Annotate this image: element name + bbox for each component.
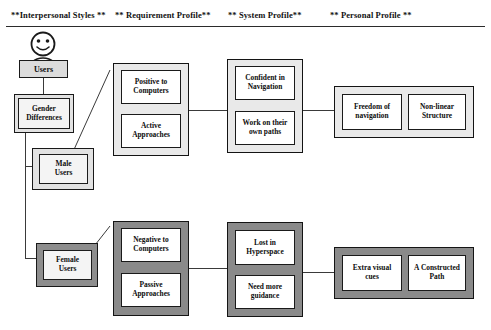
confident-in-navigation-label-line2: Navigation (248, 83, 283, 92)
diagram-canvas: **Interpersonal Styles ** ** Requirement… (0, 0, 491, 330)
male-users-label-line2: Users (55, 169, 73, 178)
node-confident-in-navigation[interactable]: Confident in Navigation (235, 66, 295, 100)
connector-male-users-to-requirement (72, 70, 110, 154)
non-linear-structure-label-line2: Structure (422, 112, 452, 121)
node-gender-differences[interactable]: Gender Differences (18, 98, 70, 129)
connector-users-to-gender (43, 78, 44, 94)
node-work-on-their-own-paths[interactable]: Work on their own paths (235, 111, 295, 145)
column-header-personal-profile: ** Personal Profile ** (330, 10, 412, 20)
freedom-of-navigation-label-line2: navigation (355, 112, 388, 121)
node-non-linear-structure[interactable]: Non-linear Structure (408, 94, 466, 130)
node-active-approaches[interactable]: Active Approaches (121, 114, 181, 148)
need-more-guidance-label-line2: guidance (251, 292, 279, 301)
node-passive-approaches[interactable]: Passive Approaches (121, 273, 181, 307)
column-header-requirement-profile: ** Requirement Profile** (115, 10, 211, 20)
negative-to-computers-label-line2: Computers (133, 245, 168, 254)
passive-approaches-label-line2: Approaches (132, 290, 170, 299)
active-approaches-label-line2: Approaches (132, 131, 170, 140)
female-users-label-line2: Users (59, 265, 77, 274)
node-male-users[interactable]: Male Users (39, 154, 88, 184)
node-lost-in-hyperspace[interactable]: Lost in Hyperspace (235, 230, 295, 265)
connector-system-to-personal-top (302, 110, 334, 111)
node-need-more-guidance[interactable]: Need more guidance (235, 275, 295, 309)
connector-requirement-to-system-top (188, 110, 227, 111)
connector-gender-trunk (25, 133, 26, 258)
extra-visual-cues-label-line2: cues (365, 273, 379, 282)
node-positive-to-computers[interactable]: Positive to Computers (121, 70, 181, 104)
a-constructed-path-label-line2: Path (430, 273, 445, 282)
positive-to-computers-label-line2: Computers (133, 87, 168, 96)
column-header-system-profile: ** System Profile** (228, 10, 302, 20)
node-extra-visual-cues[interactable]: Extra visual cues (342, 255, 402, 291)
connector-requirement-to-system-bottom (188, 268, 227, 269)
node-a-constructed-path[interactable]: A Constructed Path (408, 255, 466, 291)
node-negative-to-computers[interactable]: Negative to Computers (121, 228, 181, 262)
gender-differences-label-line2: Differences (26, 114, 62, 123)
work-own-paths-label-line2: own paths (249, 128, 281, 137)
node-users[interactable]: Users (19, 60, 68, 78)
node-female-users[interactable]: Female Users (43, 250, 92, 280)
connector-system-to-personal-bottom (302, 272, 334, 273)
lost-in-hyperspace-label-line2: Hyperspace (246, 248, 283, 257)
column-header-interpersonal-styles: **Interpersonal Styles ** (11, 10, 106, 20)
header-divider-rule (6, 26, 485, 27)
node-freedom-of-navigation[interactable]: Freedom of navigation (342, 94, 402, 130)
